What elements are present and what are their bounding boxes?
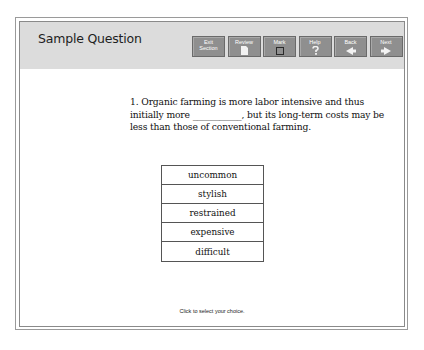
arrow-right-icon — [381, 46, 391, 55]
question-text: 1. Organic farming is more labor intensi… — [130, 96, 385, 134]
question-mark-icon — [312, 46, 319, 55]
answer-choice-stylish[interactable]: stylish — [162, 185, 263, 204]
mark-label: Mark — [273, 39, 285, 45]
next-label: Next — [380, 39, 391, 45]
question-blank: ___________ — [193, 109, 242, 120]
document-icon — [241, 46, 248, 55]
help-label: Help — [309, 39, 320, 45]
help-button[interactable]: Help — [299, 36, 332, 57]
review-button[interactable]: Review — [228, 36, 261, 57]
test-window: Sample Question Exit Section Review Mark — [19, 21, 405, 327]
instruction-text: Click to select your choice. — [20, 308, 404, 314]
answer-choice-difficult[interactable]: difficult — [162, 242, 263, 261]
answer-choice-restrained[interactable]: restrained — [162, 204, 263, 223]
checkbox-icon — [276, 46, 284, 55]
back-label: Back — [344, 39, 356, 45]
mark-button[interactable]: Mark — [263, 36, 296, 57]
exit-section-button[interactable]: Exit Section — [192, 36, 225, 57]
answer-choice-uncommon[interactable]: uncommon — [162, 166, 263, 185]
arrow-left-icon — [346, 46, 356, 55]
toolbar: Exit Section Review Mark — [192, 36, 404, 57]
answer-choices: uncommon stylish restrained expensive di… — [161, 165, 264, 262]
exit-section-label: Exit Section — [199, 39, 217, 51]
answer-choice-expensive[interactable]: expensive — [162, 223, 263, 242]
next-button[interactable]: Next — [370, 36, 403, 57]
review-label: Review — [235, 39, 253, 45]
header-bar: Sample Question Exit Section Review Mark — [20, 22, 404, 69]
question-number: 1. — [130, 96, 138, 107]
back-button[interactable]: Back — [334, 36, 367, 57]
page-title: Sample Question — [38, 31, 142, 46]
